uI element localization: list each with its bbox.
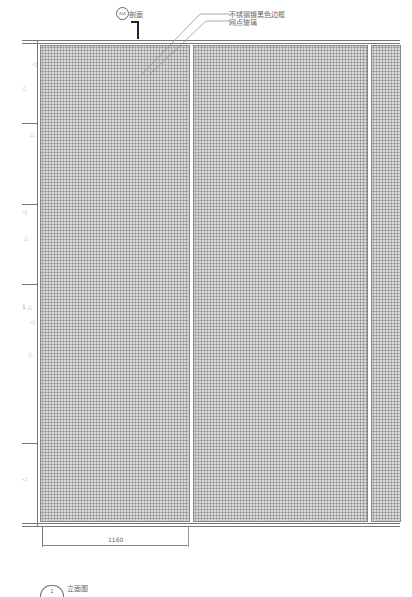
hatch-mark: △ bbox=[24, 234, 29, 241]
hatch-mark: ◁ bbox=[30, 318, 35, 325]
dim-extension-left bbox=[42, 527, 43, 547]
hatch-mark: △ bbox=[30, 130, 35, 137]
section-cut-line-v bbox=[137, 21, 139, 39]
wall-line bbox=[37, 40, 38, 527]
bottom-frame-line bbox=[22, 523, 400, 524]
title-symbol: 1 bbox=[40, 585, 64, 597]
hatch-mark: 1 △ bbox=[22, 303, 32, 310]
hatch-mark: ◁ bbox=[32, 60, 37, 67]
dim-extension-right bbox=[188, 527, 189, 547]
hatch-mark: △ bbox=[22, 84, 27, 91]
glass-panel-2 bbox=[193, 45, 368, 522]
wall-tick bbox=[22, 123, 37, 124]
glass-panel-1 bbox=[40, 45, 190, 522]
dimension-line bbox=[42, 545, 188, 546]
hatch-mark: △ bbox=[28, 350, 33, 357]
wall-tick bbox=[22, 443, 37, 444]
hatch-mark: ◁ bbox=[22, 475, 27, 482]
hatch-mark: ◁ bbox=[22, 208, 27, 215]
dimension-value: 1160 bbox=[108, 536, 123, 543]
wall-tick bbox=[22, 284, 37, 285]
callout-glass-label: 网点玻璃 bbox=[229, 17, 257, 27]
glass-panel-3 bbox=[371, 45, 401, 522]
drawing-title: 立面图 bbox=[67, 583, 88, 593]
section-marker-circle: A/A bbox=[116, 7, 129, 20]
wall-tick bbox=[22, 204, 37, 205]
bottom-frame-line-2 bbox=[22, 526, 400, 527]
